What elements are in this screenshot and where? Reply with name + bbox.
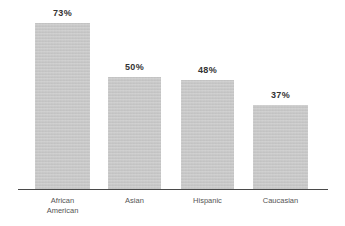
bar-rect — [253, 105, 308, 190]
plot-area: 73% African American 50% Asian 48% Hispa… — [0, 0, 345, 226]
category-axis-line — [18, 189, 328, 190]
bar-group-3: 37% Caucasian — [253, 91, 308, 190]
bar-value-label: 50% — [125, 63, 144, 72]
bar-value-label: 48% — [198, 66, 217, 75]
bar-category-label: Caucasian — [236, 196, 326, 206]
bar-value-label: 73% — [53, 9, 72, 18]
bar-rect — [108, 77, 161, 190]
bar-rect — [35, 23, 90, 190]
bar-group-1: 50% Asian — [108, 63, 161, 190]
bar-rect — [181, 80, 234, 190]
bar-value-label: 37% — [271, 91, 290, 100]
bar-chart: 73% African American 50% Asian 48% Hispa… — [0, 0, 345, 226]
bar-group-0: 73% African American — [35, 9, 90, 190]
bar-group-2: 48% Hispanic — [181, 66, 234, 190]
